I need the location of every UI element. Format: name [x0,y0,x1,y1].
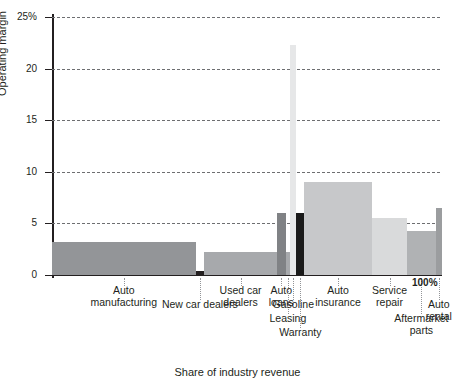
gridline [52,120,440,121]
y-axis-tick-label: 0 [31,270,37,280]
y-axis-tick [45,172,52,173]
y-axis-tick-label: 15 [26,115,37,125]
gridline [52,17,440,18]
y-axis-tick [45,69,52,70]
bar-auto-manufacturing [52,242,196,275]
y-axis-tick-labels: 25%20151050 [0,17,48,275]
bar-auto-insurance [304,182,372,275]
y-axis-tick-label: 25% [17,12,37,22]
x-axis-title: Share of industry revenue [0,366,475,378]
x-axis-end-label: 100% [412,277,438,288]
y-axis-tick [45,17,52,18]
y-axis-tick [45,223,52,224]
y-axis-tick-label: 5 [31,218,37,228]
label-leader-line [439,278,440,300]
y-axis-tick-label: 10 [26,167,37,177]
category-label: Auto rental [391,298,475,322]
gridline [52,172,440,173]
bar-used-car-dealers [204,252,277,275]
bar-service-repair [372,218,407,275]
y-axis-tick [45,120,52,121]
category-label: Warranty [252,326,348,338]
operating-margin-chart: Operating margin 25%20151050 Auto manufa… [0,0,475,391]
bar-auto-rental [436,208,442,275]
category-label: Leasing [240,312,336,324]
bar-warranty [296,213,304,275]
bar-new-car-dealers [196,271,205,275]
plot-area [52,17,440,275]
y-axis-tick-label: 20 [26,64,37,74]
y-axis-tick [45,275,52,276]
bar-auto-loans [277,213,286,275]
bar-aftermarket-parts [407,231,436,275]
gridline [52,69,440,70]
